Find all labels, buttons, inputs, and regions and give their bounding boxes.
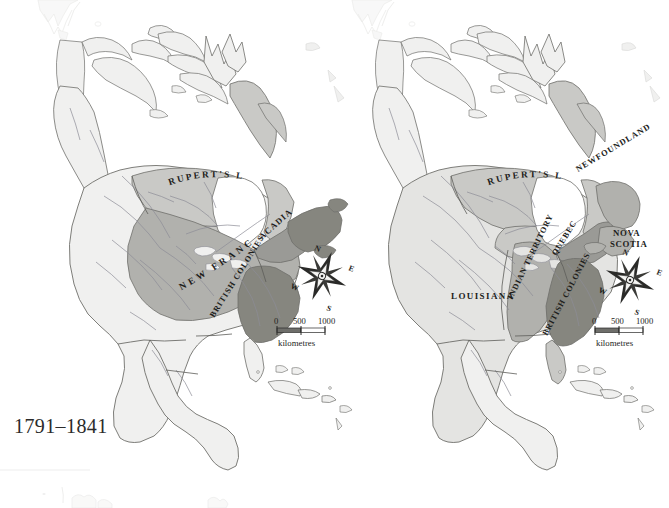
figure-caption: 1791–1841 [14, 415, 108, 438]
label-scotia: SCOTIA [610, 239, 647, 249]
scale-tick-500: 500 [293, 316, 306, 326]
scale-tick-0: 0 [274, 316, 278, 326]
label-louisiana: LOUISIANA [451, 291, 515, 301]
scale-tick-0: 0 [592, 316, 596, 326]
scale-unit-label: kilometres [278, 338, 316, 348]
label-nova: NOVA [613, 228, 640, 238]
scale-tick-1000: 1000 [636, 316, 653, 326]
scale-unit-label: kilometres [596, 338, 634, 348]
scale-tick-500: 500 [611, 316, 624, 326]
scale-tick-1000: 1000 [318, 316, 335, 326]
